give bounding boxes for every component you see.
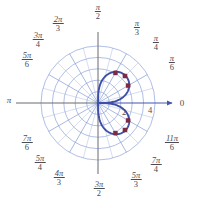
angle-label-pi-over-4: π4 (153, 34, 159, 52)
marked-point-upper-outer (126, 84, 130, 88)
polar-plot-canvas (0, 0, 197, 208)
angle-label-pi-over-2: π2 (95, 3, 101, 21)
angle-label-5pi-over-6: 5π6 (22, 51, 33, 69)
polar-plot-figure: π22π33π45π6π7π65π44π33π25π37π411π6π6π4π3… (0, 0, 197, 208)
angle-label-11pi-over-6: 11π6 (165, 134, 179, 152)
radial-tick-4: 4 (148, 105, 152, 115)
angle-label-pi-over-6: π6 (169, 54, 175, 72)
angle-label-3pi-over-4: 3π4 (33, 31, 44, 49)
angle-label-5pi-over-3: 5π3 (131, 171, 142, 189)
angle-label-pi: π (7, 96, 12, 105)
axis-label-zero: 0 (180, 98, 185, 108)
marked-point-upper-right (123, 74, 127, 78)
angle-label-pi-over-3: π3 (134, 19, 140, 37)
angle-label-7pi-over-6: 7π6 (22, 134, 33, 152)
angle-label-3pi-over-2: 3π2 (94, 180, 105, 198)
marked-point-lower-right (123, 128, 127, 132)
radial-tick-2: 2 (122, 107, 126, 117)
angle-label-7pi-over-4: 7π4 (151, 156, 162, 174)
marked-point-upper-left (113, 71, 117, 75)
marked-point-lower-outer (126, 118, 130, 122)
marked-point-lower-left (113, 131, 117, 135)
angle-label-2pi-over-3: 2π3 (53, 15, 64, 33)
angle-label-4pi-over-3: 4π3 (54, 169, 65, 187)
angle-label-5pi-over-4: 5π4 (35, 154, 46, 172)
